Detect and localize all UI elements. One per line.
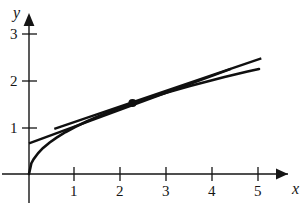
plot-area [0, 0, 308, 207]
y-axis-label: y [13, 5, 20, 21]
y-tick-label-3: 3 [10, 27, 18, 42]
x-axis [2, 169, 288, 180]
sqrt-curve [29, 69, 259, 174]
x-tick-label-5: 5 [254, 184, 262, 199]
figure-canvas: 1 2 3 4 5 1 2 3 y x [0, 0, 308, 207]
x-tick-label-4: 4 [208, 184, 216, 199]
x-tick-label-3: 3 [162, 184, 170, 199]
y-tick-label-1: 1 [10, 121, 18, 136]
x-axis-label: x [292, 181, 299, 197]
x-tick-label-1: 1 [70, 184, 78, 199]
tangent-line [54, 58, 261, 129]
y-tick-label-2: 2 [10, 74, 18, 89]
tangency-point [128, 99, 136, 107]
x-tick-label-2: 2 [116, 184, 124, 199]
